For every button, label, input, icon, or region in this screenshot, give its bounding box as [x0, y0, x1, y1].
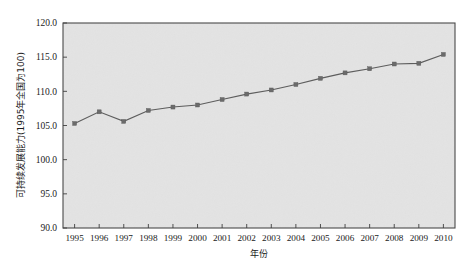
x-tick-label: 2010 — [434, 233, 453, 243]
y-tick-label: 115.0 — [36, 52, 57, 62]
y-tick-label: 90.0 — [40, 223, 57, 233]
x-tick-label: 2000 — [188, 233, 207, 243]
series-data-point — [73, 121, 77, 125]
series-data-point — [269, 88, 273, 92]
series-data-point — [146, 108, 150, 112]
x-tick-label: 2004 — [287, 233, 306, 243]
x-axis-title: 年份 — [250, 248, 268, 259]
series-data-point — [417, 61, 421, 65]
x-tick-label: 2009 — [410, 233, 429, 243]
series-data-point — [220, 98, 224, 102]
series-data-point — [343, 71, 347, 75]
series-data-point — [171, 105, 175, 109]
x-tick-label: 2003 — [262, 233, 281, 243]
series-data-point — [368, 67, 372, 71]
x-tick-label: 1997 — [115, 233, 134, 243]
x-tick-label: 2007 — [360, 233, 379, 243]
x-tick-label: 2002 — [238, 233, 257, 243]
series-data-point — [97, 110, 101, 114]
series-data-point — [245, 92, 249, 96]
series-data-point — [441, 52, 445, 56]
x-tick-label: 2006 — [336, 233, 355, 243]
y-tick-label: 110.0 — [36, 87, 57, 97]
line-chart: 90.095.0100.0105.0110.0115.0120.0 199519… — [0, 0, 468, 278]
y-tick-label: 100.0 — [36, 155, 58, 165]
series-data-point — [392, 62, 396, 66]
x-tick-label: 1999 — [164, 233, 183, 243]
x-tick-label: 2008 — [385, 233, 404, 243]
y-tick-label: 120.0 — [36, 18, 58, 28]
x-tick-label: 2005 — [311, 233, 330, 243]
y-tick-label: 95.0 — [40, 189, 57, 199]
series-data-point — [294, 83, 298, 87]
series-data-point — [122, 119, 126, 123]
x-tick-label: 2001 — [213, 233, 232, 243]
x-tick-label: 1998 — [139, 233, 158, 243]
series-data-point — [318, 76, 322, 80]
x-tick-label: 1996 — [90, 233, 109, 243]
series-data-point — [196, 103, 200, 107]
paper-grain-texture — [63, 23, 455, 228]
x-tick-label: 1995 — [65, 233, 84, 243]
y-axis-title: 可持续发展能力(1995年全国为100) — [15, 52, 26, 198]
chart-figure: 90.095.0100.0105.0110.0115.0120.0 199519… — [0, 0, 468, 278]
y-tick-label: 105.0 — [36, 121, 58, 131]
